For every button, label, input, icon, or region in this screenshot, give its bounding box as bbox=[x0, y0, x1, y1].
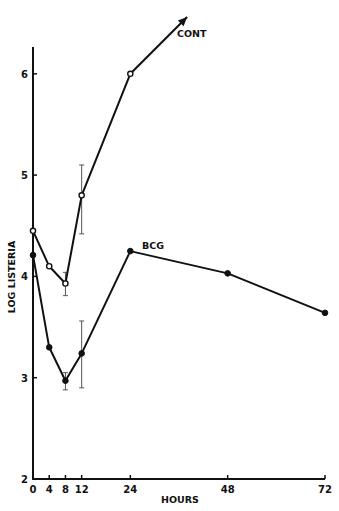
data-point-bcg bbox=[46, 345, 52, 351]
data-point-bcg bbox=[79, 351, 85, 357]
y-tick-label: 5 bbox=[21, 170, 28, 181]
data-point-bcg bbox=[128, 248, 134, 254]
series-lines bbox=[33, 17, 325, 381]
data-point-bcg bbox=[225, 271, 231, 277]
series-label-bcg: BCG bbox=[142, 240, 164, 251]
x-tick-label: 48 bbox=[221, 484, 235, 495]
x-tick-label: 4 bbox=[46, 484, 53, 495]
data-point-cont bbox=[63, 281, 68, 286]
y-tick-label: 2 bbox=[21, 474, 28, 485]
data-point-bcg bbox=[63, 378, 69, 384]
chart: 2345604812244872 HOURS LOG LISTERIA CONT… bbox=[0, 0, 339, 511]
y-tick-label: 3 bbox=[21, 373, 28, 384]
data-point-bcg bbox=[30, 252, 36, 258]
y-tick-label: 4 bbox=[21, 271, 28, 282]
trend-arrow-line-cont bbox=[130, 17, 187, 74]
data-point-cont bbox=[128, 71, 133, 76]
x-axis-title: HOURS bbox=[161, 494, 199, 505]
data-point-cont bbox=[79, 193, 84, 198]
data-point-cont bbox=[47, 264, 52, 269]
series-label-cont: CONT bbox=[177, 28, 207, 39]
data-point-cont bbox=[30, 228, 35, 233]
series-line-bcg bbox=[33, 251, 325, 381]
x-tick-label: 72 bbox=[318, 484, 332, 495]
y-axis-title: LOG LISTERIA bbox=[6, 240, 17, 313]
x-tick-label: 0 bbox=[30, 484, 37, 495]
data-point-bcg bbox=[322, 310, 328, 316]
y-tick-label: 6 bbox=[21, 69, 28, 80]
x-tick-label: 12 bbox=[75, 484, 89, 495]
labels: HOURS LOG LISTERIA CONT BCG bbox=[6, 28, 207, 505]
x-tick-label: 8 bbox=[62, 484, 69, 495]
x-tick-label: 24 bbox=[123, 484, 137, 495]
